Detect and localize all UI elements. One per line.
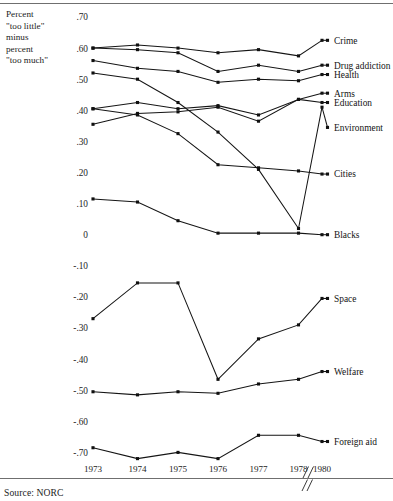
series-label: Education xyxy=(334,98,372,108)
data-point-marker xyxy=(136,457,139,460)
data-point-marker xyxy=(257,64,260,67)
series-label: Environment xyxy=(334,123,383,133)
chart-figure: Percent "too little" minus percent "too … xyxy=(0,0,393,501)
x-tick-label: 1976 xyxy=(209,464,228,474)
data-point-marker xyxy=(297,79,300,82)
data-point-marker xyxy=(216,81,219,84)
y-axis-ticks: .70.60.50.40.30.20.100-.10-.20-.30-.40-.… xyxy=(73,12,88,457)
data-point-marker xyxy=(257,337,260,340)
y-tick-label: -.30 xyxy=(73,323,88,333)
series-line xyxy=(93,61,322,83)
y-tick-label: .50 xyxy=(76,75,88,85)
series-label: Blacks xyxy=(334,230,360,240)
y-tick-label: 0 xyxy=(83,230,88,240)
data-point-marker xyxy=(176,451,179,454)
y-tick-label: -.70 xyxy=(73,448,88,458)
data-point-marker xyxy=(176,110,179,113)
data-point-marker xyxy=(297,434,300,437)
series-label: Foreign aid xyxy=(334,437,377,447)
data-point-marker xyxy=(91,446,94,449)
data-point-marker xyxy=(176,281,179,284)
y-tick-label: .20 xyxy=(76,168,88,178)
x-tick-label: 1980 xyxy=(313,464,332,474)
y-tick-label: -.10 xyxy=(73,261,88,271)
series-label-marker xyxy=(326,73,329,76)
data-point-marker xyxy=(136,78,139,81)
data-point-marker xyxy=(136,281,139,284)
series-label-marker xyxy=(326,126,329,129)
data-point-marker xyxy=(176,51,179,54)
data-point-marker xyxy=(136,200,139,203)
source-text: Source: NORC xyxy=(4,487,64,498)
data-point-marker xyxy=(91,107,94,110)
x-tick-label: 1973 xyxy=(84,464,103,474)
x-axis-ticks: 1973197419751976197719781980 xyxy=(84,464,332,474)
series-label-marker xyxy=(326,297,329,300)
x-tick-label: 1974 xyxy=(128,464,147,474)
series-label: Space xyxy=(334,294,356,304)
data-point-marker xyxy=(136,48,139,51)
line-chart-plot: .70.60.50.40.30.20.100-.10-.20-.30-.40-.… xyxy=(0,0,393,501)
data-point-marker xyxy=(91,47,94,50)
data-point-marker xyxy=(176,132,179,135)
data-point-marker xyxy=(257,113,260,116)
series-line xyxy=(93,40,322,56)
series-label-marker xyxy=(326,101,329,104)
y-tick-label: -.20 xyxy=(73,292,88,302)
data-point-marker xyxy=(257,434,260,437)
data-point-marker xyxy=(91,71,94,74)
data-point-marker xyxy=(257,232,260,235)
data-point-marker xyxy=(257,166,260,169)
data-point-marker xyxy=(297,378,300,381)
series-label: Welfare xyxy=(334,367,363,377)
data-point-marker xyxy=(257,120,260,123)
y-tick-label: .70 xyxy=(76,12,88,22)
x-tick-label: 1975 xyxy=(169,464,188,474)
data-point-marker xyxy=(297,227,300,230)
data-point-marker xyxy=(297,323,300,326)
source-note: Source: NORC xyxy=(4,487,64,498)
series-label-marker xyxy=(326,64,329,67)
y-tick-label: -.60 xyxy=(73,417,88,427)
data-point-marker xyxy=(91,197,94,200)
series-line xyxy=(93,283,322,379)
series-line xyxy=(93,109,322,174)
data-point-marker xyxy=(216,392,219,395)
data-point-marker xyxy=(176,390,179,393)
data-point-marker xyxy=(176,219,179,222)
x-tick-label: 1977 xyxy=(249,464,268,474)
series-label-marker xyxy=(326,370,329,373)
data-point-marker xyxy=(297,54,300,57)
data-point-marker xyxy=(297,70,300,73)
series-label-marker xyxy=(326,39,329,42)
data-point-marker xyxy=(176,47,179,50)
data-point-marker xyxy=(136,43,139,46)
data-point-marker xyxy=(297,232,300,235)
data-point-marker xyxy=(91,59,94,62)
data-point-marker xyxy=(91,390,94,393)
data-point-marker xyxy=(91,317,94,320)
series-line xyxy=(93,73,322,229)
series-line xyxy=(93,199,322,235)
series-line xyxy=(93,93,322,115)
data-point-marker xyxy=(257,78,260,81)
data-point-marker xyxy=(136,113,139,116)
y-tick-label: .40 xyxy=(76,106,88,116)
data-point-marker xyxy=(297,98,300,101)
y-tick-label: .30 xyxy=(76,137,88,147)
data-point-marker xyxy=(216,457,219,460)
data-point-marker xyxy=(176,70,179,73)
series-label: Crime xyxy=(334,36,357,46)
data-point-marker xyxy=(136,101,139,104)
data-point-marker xyxy=(176,107,179,110)
data-point-marker xyxy=(257,382,260,385)
data-point-marker xyxy=(136,393,139,396)
series-group: CrimeDrug addictionHealthArmsEducationEn… xyxy=(91,36,390,460)
series-line xyxy=(93,435,322,458)
series-label-marker xyxy=(326,173,329,176)
data-point-marker xyxy=(176,101,179,104)
series-label: Health xyxy=(334,70,359,80)
series-line xyxy=(93,372,322,395)
y-tick-label: .10 xyxy=(76,199,88,209)
data-point-marker xyxy=(216,232,219,235)
